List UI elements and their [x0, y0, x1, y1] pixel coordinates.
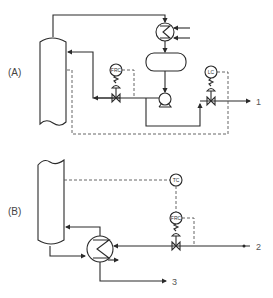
- column-a: [40, 38, 66, 125]
- distillate-line: [146, 98, 200, 126]
- stream-1-label: 1: [256, 97, 261, 107]
- stream-2-label: 2: [256, 242, 261, 252]
- panel-b-label: (B): [8, 206, 21, 217]
- reboiler-vapor-return: [66, 227, 100, 236]
- frc-a-tag: FRC: [111, 67, 122, 73]
- reflux-drum: [146, 53, 186, 71]
- tc-b-tag: TC: [173, 177, 180, 183]
- process-diagram: (A): [0, 0, 273, 298]
- column-b: [38, 160, 64, 244]
- panel-a: (A): [8, 15, 261, 134]
- stream-2-dot: [243, 245, 246, 248]
- column-bottoms-to-reboiler: [50, 246, 85, 256]
- overhead-condenser: [156, 23, 174, 41]
- lc-a-signal: [67, 70, 228, 134]
- reboiler: [87, 236, 113, 262]
- reflux-pump: [159, 93, 171, 107]
- overhead-vapor-line: [53, 15, 165, 37]
- lc-a-tag: LC: [208, 69, 215, 75]
- bottoms-product-line: [100, 262, 166, 281]
- panel-a-label: (A): [8, 67, 21, 78]
- stream-3-label: 3: [172, 277, 177, 287]
- frc-b-tag: FRC: [171, 215, 182, 221]
- frc-a-signal: [122, 70, 134, 98]
- panel-b: (B) TC FRC 2: [8, 160, 261, 287]
- frc-b-signal: [182, 218, 194, 246]
